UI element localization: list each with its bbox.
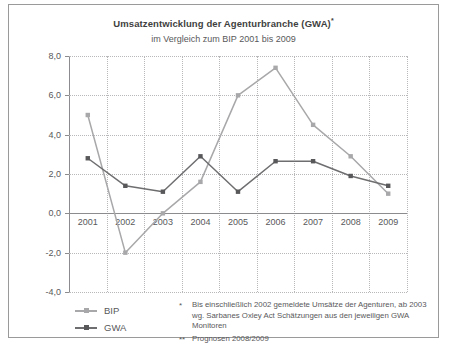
chart-title: Umsatzentwicklung der Agenturbranche (GW… [9, 15, 438, 30]
y-axis-label: -4,0 [45, 287, 61, 297]
data-point-gwa-2003 [161, 190, 165, 194]
y-axis-label: 6,0 [48, 90, 61, 100]
gridline-vertical [407, 56, 408, 292]
data-point-bip-2007 [311, 123, 315, 127]
y-axis-label: -2,0 [45, 248, 61, 258]
footnote-2-text: Prognosen 2008/2009 [192, 334, 269, 344]
data-point-bip-2006 [273, 66, 277, 70]
footnote-2-marker: ** [179, 334, 192, 344]
series-layer [69, 56, 407, 292]
y-axis-label: 0,0 [48, 208, 61, 218]
chart-footnotes: * Bis einschließlich 2002 gemeldete Umsä… [179, 300, 431, 344]
footnote-1-line2: wg. Sarbanes Oxley Act Schätzungen aus d… [192, 311, 431, 332]
y-axis-label: 4,0 [48, 130, 61, 140]
data-point-gwa-2004 [198, 154, 202, 158]
legend-label-bip: BIP [104, 305, 119, 316]
data-point-gwa-2006 [273, 159, 277, 163]
footnote-1-line1: Bis einschließlich 2002 gemeldete Umsätz… [192, 300, 426, 309]
data-point-gwa-2005 [236, 190, 240, 194]
y-axis-label: 8,0 [48, 51, 61, 61]
legend-marker-bip [75, 306, 97, 315]
data-point-gwa-2009 [386, 184, 390, 188]
data-point-gwa-2008 [348, 174, 352, 178]
series-line-gwa [88, 156, 388, 191]
data-point-gwa-2001 [86, 156, 90, 160]
data-point-bip-2003 [161, 211, 165, 215]
chart-title-text: Umsatzentwicklung der Agenturbranche (GW… [113, 18, 331, 29]
data-point-bip-2005 [236, 93, 240, 97]
footnote-2-line1: Prognosen 2008/2009 [192, 334, 269, 343]
plot-area: 8,06,04,02,00,0-2,0-4,020012002200320042… [69, 56, 407, 292]
y-tick-mark [65, 292, 69, 293]
footnote-1-text: Bis einschließlich 2002 gemeldete Umsätz… [192, 300, 431, 332]
legend-marker-gwa [75, 323, 97, 332]
legend-item-gwa: GWA [75, 319, 126, 336]
legend-label-gwa: GWA [104, 322, 126, 333]
data-point-bip-2004 [198, 180, 202, 184]
chart-subtitle: im Vergleich zum BIP 2001 bis 2009 [9, 33, 438, 45]
data-point-gwa-2007 [311, 159, 315, 163]
y-axis-label: 2,0 [48, 169, 61, 179]
footnote-2: ** Prognosen 2008/2009 [179, 334, 431, 344]
footnote-1-marker: * [179, 300, 192, 312]
footnote-1: * Bis einschließlich 2002 gemeldete Umsä… [179, 300, 431, 332]
title-block: Umsatzentwicklung der Agenturbranche (GW… [9, 15, 438, 45]
data-point-bip-2009 [386, 191, 390, 195]
chart-figure: Umsatzentwicklung der Agenturbranche (GW… [8, 4, 439, 338]
chart-legend: BIP GWA [75, 302, 126, 336]
legend-item-bip: BIP [75, 302, 126, 319]
data-point-bip-2002 [123, 250, 127, 254]
data-point-gwa-2002 [123, 184, 127, 188]
gridline-horizontal [69, 292, 407, 293]
data-point-bip-2008 [348, 154, 352, 158]
data-point-bip-2001 [86, 113, 90, 117]
chart-title-asterisk: * [331, 17, 334, 24]
